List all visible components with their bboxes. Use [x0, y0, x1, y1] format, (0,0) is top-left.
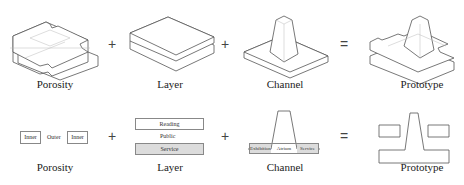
top-caption-channel: Channel	[240, 78, 330, 90]
channel-3d-diagram	[242, 10, 332, 75]
inner-box-left: Inner	[20, 131, 41, 144]
reading-box: Reading	[135, 118, 204, 130]
inner-box-right: Inner	[67, 131, 88, 144]
outer-label: Outer	[47, 134, 61, 140]
porosity-3d-diagram	[10, 18, 110, 78]
top-caption-prototype: Prototype	[377, 78, 464, 90]
service-box: Service	[135, 143, 204, 155]
bottom-caption-porosity: Porosity	[10, 161, 100, 173]
plus-operator-4: +	[221, 128, 229, 144]
bottom-caption-channel: Channel	[240, 161, 330, 173]
service-zone: Service	[297, 143, 319, 154]
equals-operator-2: =	[340, 128, 348, 144]
equals-operator: =	[340, 36, 348, 52]
top-caption-layer: Layer	[125, 78, 215, 90]
bottom-caption-layer: Layer	[125, 161, 215, 173]
atrium-zone: Atrium	[271, 143, 297, 154]
plus-operator-2: +	[221, 36, 229, 52]
prototype-3d-diagram	[368, 10, 464, 80]
plus-operator-3: +	[108, 128, 116, 144]
exhibition-zone: Exhibition	[249, 143, 271, 154]
plus-operator-1: +	[108, 36, 116, 52]
bottom-caption-prototype: Prototype	[377, 161, 464, 173]
prototype-2d-diagram	[378, 105, 458, 160]
top-caption-porosity: Porosity	[10, 78, 100, 90]
layer-3d-diagram	[128, 15, 218, 75]
public-label: Public	[160, 133, 175, 139]
